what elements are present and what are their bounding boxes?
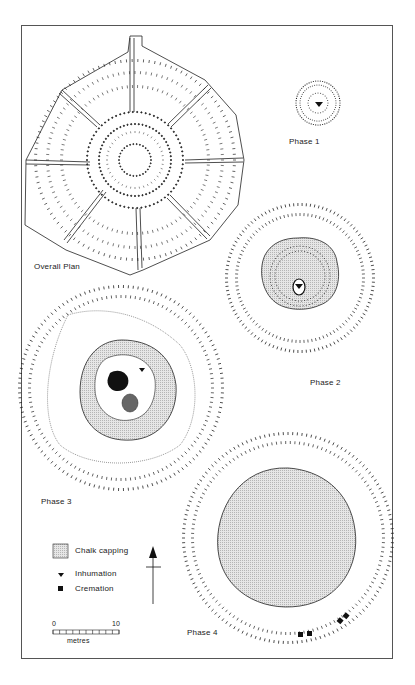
overall-plan-label: Overall Plan	[34, 262, 80, 271]
scale-end-label: 10	[112, 620, 120, 627]
chalk-capping-swatch	[53, 544, 68, 558]
phase-2-label: Phase 2	[310, 378, 341, 387]
cremation-icon	[343, 612, 350, 619]
phase-4-label: Phase 4	[187, 628, 218, 637]
scale-unit-label: metres	[67, 637, 90, 644]
inhumation-icon	[315, 102, 323, 107]
legend-cremation-label: Cremation	[75, 584, 114, 593]
phase-4-drawing	[182, 432, 394, 644]
cremation-icon	[58, 586, 63, 591]
legend	[53, 544, 68, 591]
scale-start-label: 0	[52, 620, 56, 627]
legend-chalk-capping-label: Chalk capping	[75, 546, 128, 555]
phase-1-drawing	[295, 80, 340, 125]
cremation-icon	[298, 632, 303, 637]
phase-3-drawing	[18, 285, 224, 491]
phase-3-label: Phase 3	[41, 497, 72, 506]
overall-plan-drawing	[25, 36, 244, 275]
cremation-deposit	[107, 371, 128, 391]
north-arrow-icon	[146, 546, 161, 604]
legend-inhumation-label: Inhumation	[75, 569, 117, 578]
site-plan-drawing	[0, 0, 415, 685]
phase-1-label: Phase 1	[289, 137, 320, 146]
cremation-icon	[307, 631, 312, 636]
scale-bar	[53, 630, 119, 634]
inhumation-icon	[58, 573, 64, 577]
phase-2-drawing	[225, 203, 375, 353]
